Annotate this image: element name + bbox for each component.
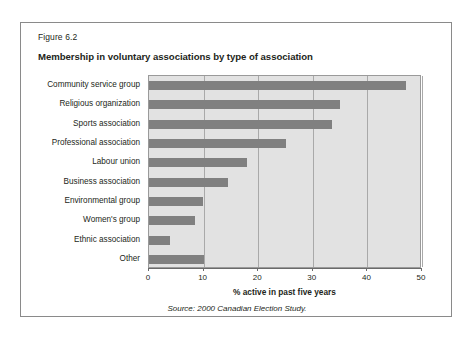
category-label: Sports association <box>73 119 140 128</box>
bar-row <box>149 197 420 206</box>
bar <box>149 139 286 148</box>
tick-mark-0 <box>148 268 149 271</box>
category-label: Women's group <box>83 215 140 224</box>
bar <box>149 236 170 245</box>
bar-row <box>149 139 420 148</box>
bar <box>149 120 332 129</box>
bar-row <box>149 178 420 187</box>
bar <box>149 255 204 264</box>
tick-label-40: 40 <box>362 273 371 282</box>
tick-label-50: 50 <box>417 273 426 282</box>
bar-row <box>149 81 420 90</box>
category-label: Labour union <box>92 157 140 166</box>
category-label: Environmental group <box>64 196 140 205</box>
tick-label-10: 10 <box>198 273 207 282</box>
bar-series <box>149 76 420 267</box>
tick-mark-40 <box>366 268 367 271</box>
tick-mark-50 <box>421 268 422 271</box>
category-label: Community service group <box>47 80 140 89</box>
gridline-50 <box>422 76 423 267</box>
plot-area <box>148 75 421 268</box>
tick-label-0: 0 <box>146 273 150 282</box>
category-label: Other <box>120 254 140 263</box>
bar-row <box>149 255 420 264</box>
category-label: Professional association <box>52 138 140 147</box>
bar <box>149 197 203 206</box>
bar <box>149 178 228 187</box>
bar-row <box>149 236 420 245</box>
x-axis-title: % active in past five years <box>148 287 421 297</box>
bar <box>149 158 247 167</box>
category-axis-labels: Community service groupReligious organiz… <box>21 75 144 268</box>
figure-frame: Figure 6.2 Membership in voluntary assoc… <box>20 22 452 317</box>
category-label: Business association <box>64 177 140 186</box>
category-label: Ethnic association <box>74 235 140 244</box>
bar-chart: Community service groupReligious organiz… <box>21 23 453 318</box>
bar <box>149 100 340 109</box>
source-note: Source: 2000 Canadian Election Study. <box>21 304 453 313</box>
tick-label-20: 20 <box>253 273 262 282</box>
bar-row <box>149 100 420 109</box>
category-label: Religious organization <box>59 99 140 108</box>
bar <box>149 81 406 90</box>
tick-mark-10 <box>203 268 204 271</box>
bar-row <box>149 216 420 225</box>
tick-mark-30 <box>312 268 313 271</box>
bar-row <box>149 120 420 129</box>
tick-label-30: 30 <box>307 273 316 282</box>
tick-mark-20 <box>257 268 258 271</box>
x-axis-line <box>148 268 421 269</box>
bar <box>149 216 195 225</box>
bar-row <box>149 158 420 167</box>
